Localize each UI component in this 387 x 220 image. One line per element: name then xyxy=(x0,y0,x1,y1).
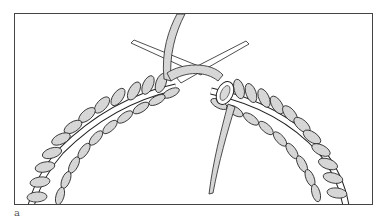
stitches-right xyxy=(232,78,348,199)
knitting-illustration xyxy=(15,14,373,205)
illustration-frame xyxy=(14,13,373,205)
figure-caption: a xyxy=(14,207,20,219)
yarn-wrap xyxy=(167,65,223,81)
yarn-tail xyxy=(209,104,235,194)
